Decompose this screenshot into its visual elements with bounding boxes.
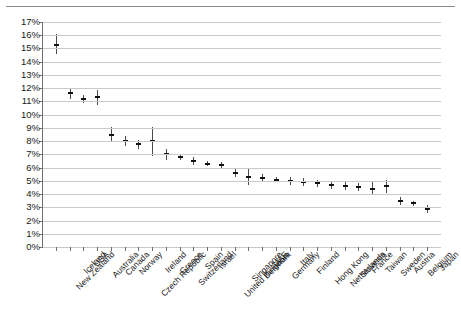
value-marker bbox=[260, 177, 265, 179]
gridline bbox=[42, 141, 441, 142]
gridline bbox=[42, 88, 441, 89]
value-marker bbox=[246, 176, 251, 178]
value-marker bbox=[54, 44, 59, 46]
y-tick-label: 6% bbox=[4, 163, 40, 173]
y-tick-label: 9% bbox=[4, 123, 40, 133]
top-divider bbox=[6, 6, 455, 7]
value-marker bbox=[329, 184, 334, 186]
gridline bbox=[42, 128, 441, 129]
gridline bbox=[42, 181, 441, 182]
gridline bbox=[42, 62, 441, 63]
plot-area bbox=[42, 22, 441, 247]
gridline bbox=[42, 75, 441, 76]
gridline bbox=[42, 35, 441, 36]
value-marker bbox=[370, 188, 375, 190]
value-marker bbox=[315, 182, 320, 184]
chart-figure: 0%1%2%3%4%5%6%7%8%9%10%11%12%13%14%15%16… bbox=[0, 0, 461, 316]
value-marker bbox=[343, 185, 348, 187]
value-marker bbox=[219, 164, 224, 166]
gridline bbox=[42, 115, 441, 116]
x-axis-labels: New ZealandIcelandUSAAustraliaCanadaNorw… bbox=[42, 250, 441, 316]
y-tick-label: 15% bbox=[4, 43, 40, 53]
value-marker bbox=[411, 202, 416, 204]
value-marker bbox=[178, 156, 183, 158]
y-tick-label: 17% bbox=[4, 17, 40, 27]
gridline bbox=[42, 247, 441, 248]
gridline bbox=[42, 154, 441, 155]
y-tick-label: 12% bbox=[4, 83, 40, 93]
y-tick-label: 5% bbox=[4, 176, 40, 186]
value-marker bbox=[233, 172, 238, 174]
y-tick-label: 13% bbox=[4, 70, 40, 80]
value-marker bbox=[136, 143, 141, 145]
y-tick-label: 8% bbox=[4, 136, 40, 146]
value-marker bbox=[68, 92, 73, 94]
y-tick-label: 16% bbox=[4, 30, 40, 40]
y-tick-label: 11% bbox=[4, 96, 40, 106]
y-tick-label: 2% bbox=[4, 216, 40, 226]
gridline bbox=[42, 168, 441, 169]
y-tick-label: 14% bbox=[4, 57, 40, 67]
gridline bbox=[42, 207, 441, 208]
y-tick-label: 4% bbox=[4, 189, 40, 199]
gridline bbox=[42, 194, 441, 195]
y-tick-label: 10% bbox=[4, 110, 40, 120]
y-tick-label: 1% bbox=[4, 229, 40, 239]
value-marker bbox=[191, 160, 196, 162]
gridline bbox=[42, 48, 441, 49]
value-marker bbox=[398, 200, 403, 202]
gridline bbox=[42, 234, 441, 235]
y-tick-label: 7% bbox=[4, 149, 40, 159]
gridline bbox=[42, 101, 441, 102]
gridline bbox=[42, 221, 441, 222]
value-marker bbox=[384, 185, 389, 187]
value-marker bbox=[95, 96, 100, 98]
value-marker bbox=[109, 134, 114, 136]
value-marker bbox=[205, 163, 210, 165]
y-tick-label: 0% bbox=[4, 242, 40, 252]
gridline bbox=[42, 22, 441, 23]
value-marker bbox=[356, 186, 361, 188]
y-tick-label: 3% bbox=[4, 202, 40, 212]
value-marker bbox=[81, 98, 86, 100]
data-series-estimate bbox=[42, 22, 441, 247]
